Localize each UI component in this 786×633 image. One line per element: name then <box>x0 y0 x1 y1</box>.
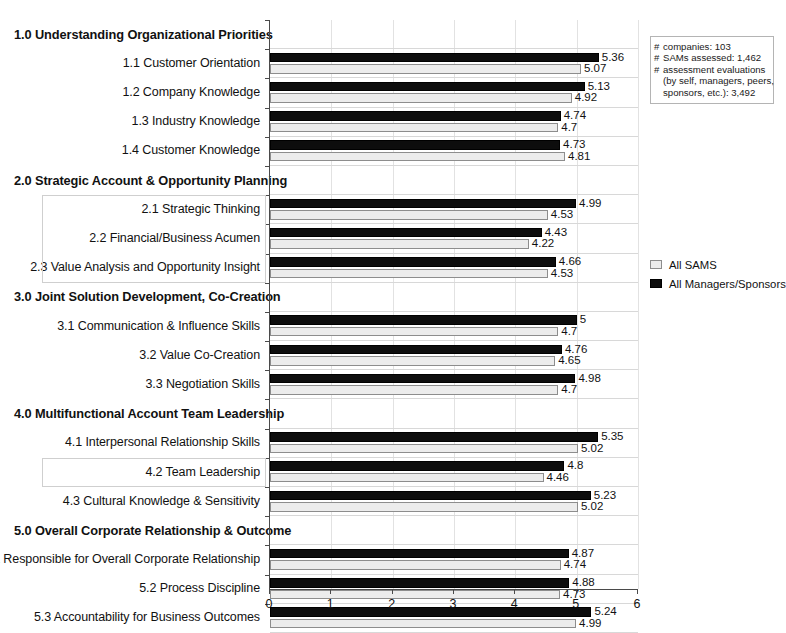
x-axis-tick-label: 2 <box>388 597 395 611</box>
bar-managers-sponsors <box>270 432 598 442</box>
bar-all-sams <box>270 560 561 570</box>
bar-managers-sponsors <box>270 199 576 209</box>
x-axis-tick-label: 0 <box>266 597 273 611</box>
category-label: 4.3 Cultural Knowledge & Sensitivity <box>63 495 260 509</box>
bar-managers-sponsors <box>270 461 564 471</box>
category-tick <box>265 487 270 488</box>
bar-row: 4.744.7 <box>270 108 638 137</box>
bar-row: 5.365.07 <box>270 49 638 78</box>
hash-marker: # <box>654 64 663 75</box>
bar-all-sams <box>270 502 578 512</box>
bar-all-sams <box>270 210 548 220</box>
bar-series-container: 5.365.075.134.924.744.74.734.814.994.534… <box>270 20 638 589</box>
category-label: 1.3 Industry Knowledge <box>132 115 260 129</box>
category-label-row: 1.4 Customer Knowledge <box>0 137 266 166</box>
category-tick <box>265 78 270 79</box>
bar-value-all-sams: 4.53 <box>551 209 573 221</box>
bar-value-all-sams: 5.02 <box>581 501 603 513</box>
legend-item[interactable]: All Managers/Sponsors <box>650 274 786 293</box>
x-axis-tick-label: 5 <box>572 597 579 611</box>
bar-managers-sponsors <box>270 374 575 384</box>
category-tick <box>265 341 270 342</box>
x-axis-tick-label: 4 <box>511 597 518 611</box>
bar-value-all-sams: 4.99 <box>579 618 601 630</box>
section-spacer-row <box>270 516 638 545</box>
bar-all-sams <box>270 123 558 133</box>
category-tick <box>265 137 270 138</box>
bar-all-sams <box>270 356 555 366</box>
section-header-label: 3.0 Joint Solution Development, Co-Creat… <box>14 290 281 304</box>
section-header-row: 4.0 Multifunctional Account Team Leaders… <box>0 399 266 428</box>
bar-row: 4.874.74 <box>270 545 638 574</box>
legend-item[interactable]: All SAMS <box>650 255 786 274</box>
legend-swatch-dark <box>650 279 662 288</box>
summary-info-box: #companies: 103#SAMs assessed: 1,462#ass… <box>650 36 774 104</box>
bar-row: 4.734.81 <box>270 137 638 166</box>
bar-value-managers-sponsors: 5.35 <box>601 431 623 443</box>
bar-value-managers-sponsors: 4.88 <box>572 577 594 589</box>
category-label-row: 1.1 Customer Orientation <box>0 49 266 78</box>
hash-marker <box>654 75 663 86</box>
x-axis-tick <box>269 589 270 594</box>
category-label-row: 2.2 Financial/Business Acumen <box>0 224 266 253</box>
category-label-column: 1.0 Understanding Organizational Priorit… <box>0 20 266 633</box>
x-axis-tick-label: 6 <box>634 597 641 611</box>
info-line: #assessment evaluations <box>654 64 769 75</box>
category-tick <box>265 166 270 167</box>
section-header-label: 1.0 Understanding Organizational Priorit… <box>14 28 273 42</box>
bar-all-sams <box>270 269 548 279</box>
category-tick <box>265 49 270 50</box>
category-tick <box>265 575 270 576</box>
bar-value-all-sams: 4.7 <box>561 122 577 134</box>
category-label: 1.4 Customer Knowledge <box>122 144 260 158</box>
bar-value-managers-sponsors: 4.66 <box>559 256 581 268</box>
info-text: assessment evaluations <box>663 64 769 75</box>
category-label: 4.1 Interpersonal Relationship Skills <box>65 436 260 450</box>
category-tick <box>265 370 270 371</box>
bar-row: 4.434.22 <box>270 224 638 253</box>
bar-row: 4.994.53 <box>270 195 638 224</box>
info-line: #companies: 103 <box>654 41 769 52</box>
category-label-row: 4.2 Team Leadership <box>0 458 266 487</box>
hash-marker: # <box>654 52 663 63</box>
bar-value-all-sams: 4.46 <box>547 472 569 484</box>
bar-row: 5.235.02 <box>270 487 638 516</box>
section-spacer-row <box>270 399 638 428</box>
info-line: #SAMs assessed: 1,462 <box>654 52 769 63</box>
bar-value-managers-sponsors: 5 <box>580 314 586 326</box>
section-header-row: 2.0 Strategic Account & Opportunity Plan… <box>0 166 266 195</box>
bar-value-all-sams: 4.53 <box>551 268 573 280</box>
bar-value-managers-sponsors: 4.98 <box>578 373 600 385</box>
x-axis-tick <box>453 589 454 594</box>
bar-value-all-sams: 4.7 <box>561 326 577 338</box>
category-label-row: 5.3 Accountability for Business Outcomes <box>0 604 266 633</box>
bar-all-sams <box>270 152 565 162</box>
bar-value-all-sams: 5.02 <box>581 443 603 455</box>
info-text: companies: 103 <box>663 41 769 52</box>
bar-managers-sponsors <box>270 491 591 501</box>
bar-value-all-sams: 4.92 <box>575 92 597 104</box>
bar-managers-sponsors <box>270 82 585 92</box>
legend-label: All Managers/Sponsors <box>669 278 786 290</box>
section-spacer-row <box>270 166 638 195</box>
bar-value-managers-sponsors: 4.74 <box>564 110 586 122</box>
info-line: sponsors, etc.): 3,492 <box>654 87 769 98</box>
x-axis-tick <box>392 589 393 594</box>
category-tick <box>265 545 270 546</box>
category-label-row: 2.1 Strategic Thinking <box>0 195 266 224</box>
bar-managers-sponsors <box>270 53 599 63</box>
category-label: 2.1 Strategic Thinking <box>142 203 260 217</box>
category-label-row: 1.2 Company Knowledge <box>0 78 266 107</box>
bar-value-managers-sponsors: 4.99 <box>579 198 601 210</box>
category-tick <box>265 224 270 225</box>
bar-all-sams <box>270 93 572 103</box>
section-header-row: 3.0 Joint Solution Development, Co-Creat… <box>0 283 266 312</box>
category-tick <box>265 458 270 459</box>
bar-managers-sponsors <box>270 607 591 617</box>
hash-marker: # <box>654 41 663 52</box>
category-label-row: 4.3 Cultural Knowledge & Sensitivity <box>0 487 266 516</box>
category-label-row: 1.3 Industry Knowledge <box>0 108 266 137</box>
bar-managers-sponsors <box>270 315 577 325</box>
bar-managers-sponsors <box>270 578 569 588</box>
